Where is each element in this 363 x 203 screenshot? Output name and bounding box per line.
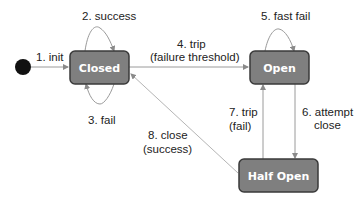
state-open-label: Open [263, 62, 296, 75]
state-half-open: Half Open [239, 159, 318, 192]
transition-attempt-close-label-line2: close [314, 119, 341, 131]
transition-close-success-label-line2: (success) [143, 143, 192, 155]
initial-state-node [15, 59, 31, 75]
transition-close-success-label-line1: 8. close [148, 129, 188, 141]
transition-trip-fail-label-line2: (fail) [229, 120, 252, 132]
transition-trip-fail-label-line1: 7. trip [229, 106, 258, 118]
transition-close-success-edge [131, 74, 238, 173]
transition-fail-loop [86, 84, 114, 104]
transition-trip-threshold-label-line1: 4. trip [177, 38, 206, 50]
transition-success-label: 2. success [82, 10, 137, 22]
state-closed-label: Closed [79, 62, 120, 75]
state-diagram: 1. init 2. success 3. fail 4. trip (fail… [0, 0, 363, 203]
transition-fail-label: 3. fail [88, 114, 116, 126]
transition-attempt-close-label-line1: 6. attempt [302, 106, 354, 118]
state-half-open-label: Half Open [248, 170, 310, 183]
state-open: Open [250, 51, 309, 84]
transition-trip-threshold-label-line2: (failure threshold) [150, 51, 240, 63]
transition-success-loop [85, 27, 114, 51]
transition-fast-fail-loop [265, 29, 294, 51]
state-closed: Closed [70, 51, 129, 84]
transition-init-label: 1. init [36, 51, 64, 63]
transition-fast-fail-label: 5. fast fail [261, 10, 310, 22]
